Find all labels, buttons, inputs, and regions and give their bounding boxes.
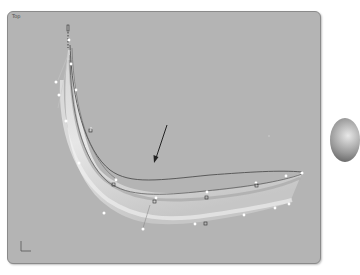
world-axis-icon xyxy=(21,241,31,251)
stray-point xyxy=(268,135,270,137)
curved-surface[interactable] xyxy=(62,50,302,224)
direction-arrow-icon xyxy=(154,125,168,163)
side-sphere-object xyxy=(330,118,360,162)
